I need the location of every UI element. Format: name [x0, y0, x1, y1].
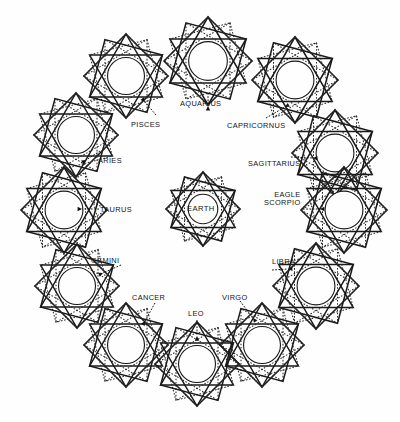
label-taurus-line-0: TAURUS	[100, 206, 132, 215]
label-virgo-line-0: VIRGO	[222, 294, 248, 303]
zodiac-star-taurus[interactable]	[21, 167, 107, 253]
label-leo: LEO	[188, 310, 204, 319]
label-scorpio-line-1: SCORPIO	[264, 199, 301, 207]
zodiac-star-aquarius[interactable]	[164, 17, 252, 105]
label-virgo: VIRGO	[222, 294, 248, 303]
virgo-arrow-head	[253, 318, 257, 323]
label-leo-line-0: LEO	[188, 310, 204, 319]
label-pisces-line-0: PISCES	[131, 121, 160, 130]
pointer-cancer	[141, 303, 155, 326]
label-libra-line-0: LIBRA	[272, 258, 295, 267]
label-libra: LIBRA	[272, 258, 295, 267]
label-aries-line-0: ARIES	[98, 157, 122, 166]
label-pisces: PISCES	[131, 121, 160, 130]
label-sagittarius: SAGITTARIUS	[248, 160, 301, 169]
zodiac-diagram: EARTHAQUARIUSCAPRICORNUSSAGITTARIUSEAGLE…	[0, 0, 400, 422]
label-cancer-line-0: CANCER	[132, 294, 165, 303]
zodiac-star-cancer[interactable]	[84, 303, 168, 387]
label-scorpio: EAGLESCORPIO	[264, 191, 301, 208]
libra-arrow-shaft	[272, 269, 288, 270]
capricornus-arrow-head	[285, 103, 290, 107]
label-aries: ARIES	[98, 157, 122, 166]
label-aquarius-line-0: AQUARIUS	[180, 100, 221, 109]
label-gemini-line-0: GEMINI	[91, 257, 119, 266]
label-gemini: GEMINI	[91, 257, 119, 266]
label-sagittarius-line-0: SAGITTARIUS	[248, 160, 301, 169]
sagittarius-arrow-shaft	[291, 157, 313, 158]
earth-label: EARTH	[187, 204, 215, 213]
cancer-arrow-head	[141, 321, 145, 326]
zodiac-star-libra[interactable]	[273, 243, 359, 329]
zodiac-star-capricornus[interactable]	[252, 37, 338, 123]
label-capricornus-line-0: CAPRICORNUS	[227, 122, 285, 131]
label-cancer: CANCER	[132, 294, 165, 303]
label-taurus: TAURUS	[100, 206, 132, 215]
label-aquarius: AQUARIUS	[180, 100, 221, 109]
leo-arrow-head	[195, 336, 199, 340]
label-capricornus: CAPRICORNUS	[227, 122, 285, 131]
